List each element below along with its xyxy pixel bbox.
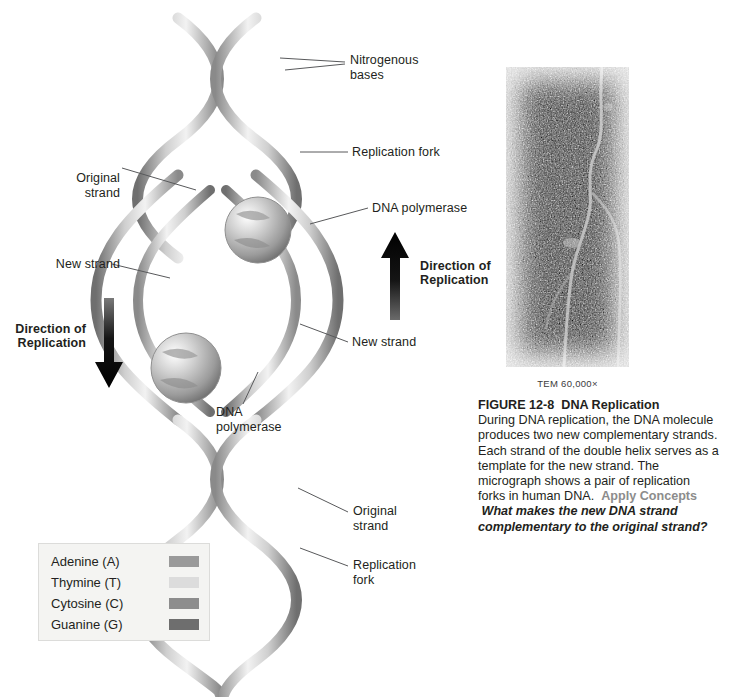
figure-caption: FIGURE 12-8 DNA Replication During DNA r… [478, 398, 720, 535]
direction-arrow-up [380, 232, 414, 320]
legend-swatch-thymine [169, 577, 199, 588]
legend-label-adenine: Adenine (A) [51, 554, 120, 569]
legend-swatch-adenine [169, 556, 199, 567]
legend-item-thymine: Thymine (T) [51, 572, 199, 593]
label-nitrogenous-bases: Nitrogenous bases [350, 53, 419, 82]
tem-micrograph [506, 67, 629, 367]
figure-canvas: Nitrogenous bases Replication fork DNA p… [0, 0, 729, 697]
legend-label-thymine: Thymine (T) [51, 575, 121, 590]
label-original-strand-left: Original strand [28, 171, 120, 200]
legend-label-cytosine: Cytosine (C) [51, 596, 123, 611]
figure-title: DNA Replication [561, 398, 659, 412]
label-original-strand-bottom: Original strand [353, 504, 397, 533]
legend-label-guanine: Guanine (G) [51, 617, 123, 632]
figure-question: What makes the new DNA strand complement… [478, 504, 708, 533]
label-direction-of-replication-up: Direction of Replication [420, 259, 491, 287]
micrograph-scale-label: TEM 60,000× [506, 378, 629, 389]
label-dna-polymerase-center: DNA polymerase [216, 405, 282, 434]
legend-item-cytosine: Cytosine (C) [51, 593, 199, 614]
legend-swatch-guanine [169, 619, 199, 630]
legend-swatch-cytosine [169, 598, 199, 609]
legend-item-guanine: Guanine (G) [51, 614, 199, 635]
figure-number: FIGURE 12-8 [478, 398, 554, 412]
legend-item-adenine: Adenine (A) [51, 551, 199, 572]
label-direction-of-replication-down: Direction of Replication [8, 322, 86, 350]
label-dna-polymerase-right: DNA polymerase [372, 201, 467, 216]
dna-polymerase-sphere-upper [225, 197, 291, 263]
dna-polymerase-sphere-lower [151, 333, 221, 403]
micrograph-vignette [506, 67, 629, 367]
base-legend: Adenine (A) Thymine (T) Cytosine (C) Gua… [38, 543, 210, 641]
label-new-strand-right: New strand [352, 335, 416, 350]
label-replication-fork-bottom: Replication fork [353, 558, 416, 587]
label-replication-fork-top: Replication fork [352, 145, 440, 160]
direction-arrow-down [94, 298, 128, 388]
label-new-strand-left: New strand [12, 257, 120, 272]
apply-concepts-label: Apply Concepts [601, 489, 697, 503]
